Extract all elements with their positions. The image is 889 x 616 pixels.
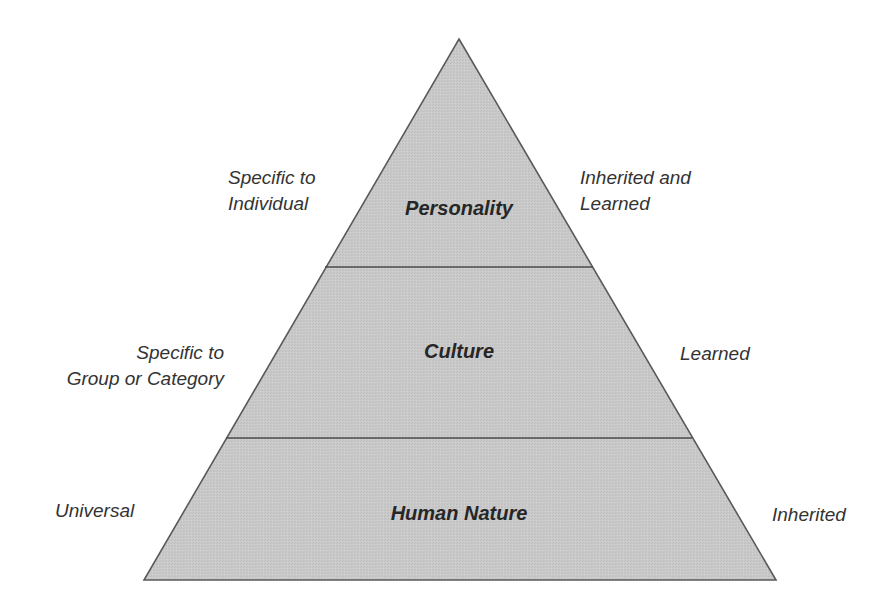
right-label-personality-line1: Inherited and	[580, 165, 691, 191]
right-label-human-nature: Inherited	[772, 502, 846, 528]
pyramid-body	[144, 39, 776, 580]
left-label-culture-line1: Specific to	[67, 340, 224, 366]
level-title-human-nature: Human Nature	[391, 502, 528, 525]
left-label-human-nature-line1: Universal	[55, 498, 134, 524]
level-title-personality: Personality	[405, 197, 513, 220]
pyramid-diagram: Personality Culture Human Nature Specifi…	[0, 0, 889, 616]
left-label-personality-line1: Specific to	[228, 165, 316, 191]
right-label-personality: Inherited and Learned	[580, 165, 691, 217]
right-label-culture-line1: Learned	[680, 341, 750, 367]
left-label-culture: Specific to Group or Category	[67, 340, 224, 392]
right-label-human-nature-line1: Inherited	[772, 502, 846, 528]
left-label-human-nature: Universal	[55, 498, 134, 524]
right-label-culture: Learned	[680, 341, 750, 367]
right-label-personality-line2: Learned	[580, 191, 691, 217]
left-label-personality-line2: Individual	[228, 191, 316, 217]
level-title-culture: Culture	[424, 340, 494, 363]
left-label-culture-line2: Group or Category	[67, 366, 224, 392]
left-label-personality: Specific to Individual	[228, 165, 316, 217]
